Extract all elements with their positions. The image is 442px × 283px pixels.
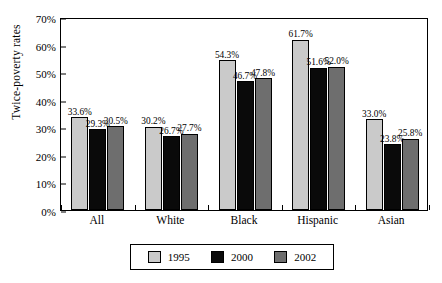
x-tick-mark (355, 205, 356, 210)
bar-value-label: 25.8% (398, 129, 422, 138)
bar-value-label: 52.0% (324, 57, 348, 66)
bar-group: 30.2%26.7%27.7% (145, 19, 198, 210)
y-tick-label: 60% (36, 41, 61, 53)
bar: 26.7% (163, 136, 180, 210)
y-tick-label: 30% (36, 123, 61, 135)
legend-swatch (274, 251, 287, 263)
bar-group: 54.3%46.7%47.8% (219, 19, 272, 210)
x-tick-mark (135, 205, 136, 210)
x-tick-mark (282, 205, 283, 210)
bar: 46.7% (237, 81, 254, 210)
y-tick-label: 10% (36, 178, 61, 190)
bar-value-label: 61.7% (288, 30, 312, 39)
y-tick-mark (61, 212, 66, 213)
x-category-label: Black (231, 214, 258, 226)
bar: 33.6% (71, 117, 88, 210)
bar-value-label: 33.0% (362, 110, 386, 119)
bar: 33.0% (366, 119, 383, 210)
bar-group: 33.0%23.8%25.8% (366, 19, 419, 210)
chart-legend: 199520002002 (130, 244, 334, 270)
bar: 51.6% (310, 68, 327, 210)
bar-value-label: 27.7% (177, 124, 201, 133)
bar-group: 61.7%51.6%52.0% (292, 19, 345, 210)
bar: 30.2% (145, 127, 162, 210)
bar: 30.5% (107, 126, 124, 210)
plot-area: 70%60%50%40%30%20%10%0% 33.6%29.3%30.5%3… (60, 18, 428, 211)
bar: 25.8% (402, 139, 419, 210)
legend-label: 2002 (294, 251, 316, 263)
bar: 47.8% (255, 78, 272, 210)
x-tick-mark (429, 205, 430, 210)
bar: 54.3% (219, 60, 236, 210)
bar-value-label: 54.3% (215, 51, 239, 60)
y-axis-title: Twice-poverty rates (10, 12, 22, 132)
bar-chart-figure: Twice-poverty rates 70%60%50%40%30%20%10… (0, 0, 442, 283)
x-category-label: Hispanic (297, 214, 338, 226)
bar: 23.8% (384, 144, 401, 210)
x-tick-mark (208, 205, 209, 210)
bar: 29.3% (89, 129, 106, 210)
legend-swatch (148, 251, 161, 263)
legend-entry[interactable]: 2002 (274, 251, 316, 263)
y-tick-label: 0% (41, 206, 61, 218)
y-tick-label: 70% (36, 13, 61, 25)
legend-entry[interactable]: 2000 (211, 251, 253, 263)
y-tick-label: 50% (36, 68, 61, 80)
x-tick-mark (61, 205, 62, 210)
y-tick-label: 20% (36, 151, 61, 163)
bar-group: 33.6%29.3%30.5% (71, 19, 124, 210)
x-category-label: Asian (378, 214, 405, 226)
legend-label: 2000 (231, 251, 253, 263)
bar-value-label: 47.8% (251, 69, 275, 78)
legend-label: 1995 (168, 251, 190, 263)
x-category-label: All (89, 214, 104, 226)
bar-value-label: 30.5% (104, 117, 128, 126)
y-tick-label: 40% (36, 96, 61, 108)
bar: 52.0% (328, 67, 345, 210)
bar: 27.7% (181, 134, 198, 210)
x-category-label: White (156, 214, 184, 226)
legend-swatch (211, 251, 224, 263)
legend-entry[interactable]: 1995 (148, 251, 190, 263)
bars-layer: 33.6%29.3%30.5%30.2%26.7%27.7%54.3%46.7%… (61, 19, 427, 210)
bar-value-label: 33.6% (68, 108, 92, 117)
